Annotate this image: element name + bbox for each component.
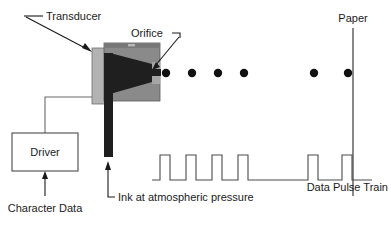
droplet [310,69,318,77]
character-data-arrowhead [42,171,48,179]
data-pulse-train-waveform [152,155,372,180]
droplet [344,69,352,77]
transducer-label: Transducer [46,10,102,22]
character-data-label: Character Data [8,202,83,214]
droplet-train [162,69,352,77]
inkjet-nozzle-diagram: Driver Character Data Ink at atmospheric… [0,0,391,226]
nozzle-body-marking [128,44,135,46]
droplet [188,69,196,77]
ink-label-leader [108,190,115,197]
data-pulse-train-label: Data Pulse Train [307,181,388,193]
ink-label-arrowhead [105,161,111,170]
driver-to-transducer-wire [45,97,92,133]
ink-supply-tube [104,101,113,157]
orifice-label: Orifice [131,27,163,39]
orifice-channel [152,69,161,76]
orifice-lower-face [152,76,160,84]
droplet [162,69,170,77]
droplet [240,69,248,77]
transducer-arrowhead [82,43,92,52]
droplet [214,69,222,77]
driver-label: Driver [30,146,60,158]
ink-feed-trunk [104,53,113,101]
diagram-canvas: Driver Character Data Ink at atmospheric… [0,0,391,226]
ink-label: Ink at atmospheric pressure [118,191,254,203]
paper-label: Paper [338,12,368,24]
